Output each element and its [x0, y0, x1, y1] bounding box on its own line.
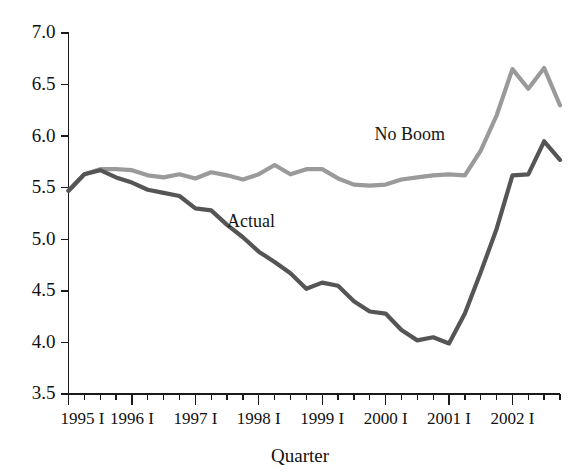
- y-tick-label: 5.5: [32, 176, 56, 197]
- x-tick-label: 1997 I: [173, 409, 217, 428]
- x-tick-label: 2001 I: [427, 409, 471, 428]
- y-tick-label: 7.0: [32, 21, 56, 42]
- x-tick-label: 1995 I: [61, 409, 105, 428]
- series-line-no-boom: [69, 68, 561, 191]
- x-tick-label: 1999 I: [300, 409, 344, 428]
- x-tick-label: 2002 I: [490, 409, 534, 428]
- series-lines: [69, 68, 561, 343]
- y-axis-ticks: 3.54.04.55.05.56.06.57.0: [32, 21, 69, 403]
- x-tick-label: 2000 I: [364, 409, 408, 428]
- line-chart: 3.54.04.55.05.56.06.57.0 No BoomActual 1…: [0, 0, 571, 472]
- x-axis-title: Quarter: [271, 445, 330, 466]
- series-label-actual: Actual: [227, 211, 275, 231]
- x-axis-tick-labels: 1995 I1996 I1997 I1998 I1999 I2000 I2001…: [61, 409, 535, 428]
- x-tick-label: 1996 I: [110, 409, 154, 428]
- y-tick-label: 4.5: [32, 279, 56, 300]
- y-tick-label: 6.0: [32, 125, 56, 146]
- x-tick-label: 1998 I: [237, 409, 281, 428]
- y-tick-label: 6.5: [32, 73, 56, 94]
- y-tick-label: 3.5: [32, 382, 56, 403]
- chart-container: 3.54.04.55.05.56.06.57.0 No BoomActual 1…: [0, 0, 571, 472]
- x-axis-ticks: [69, 394, 561, 405]
- y-tick-label: 5.0: [32, 228, 56, 249]
- series-label-no-boom: No Boom: [374, 124, 445, 144]
- y-tick-label: 4.0: [32, 331, 56, 352]
